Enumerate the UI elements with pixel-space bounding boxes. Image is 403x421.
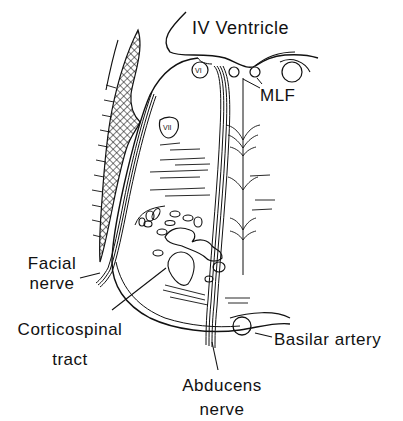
corticospinal-bundles <box>139 207 225 285</box>
mlf-left <box>229 67 239 77</box>
mlf-right <box>250 67 260 77</box>
svg-text:VII: VII <box>163 124 172 131</box>
label-facial-line2: nerve <box>22 274 82 294</box>
facial-leader <box>80 273 100 278</box>
svg-text:VI: VI <box>195 67 202 74</box>
label-corticospinal-line2: tract <box>10 345 130 375</box>
label-abducens-line2: nerve <box>180 398 264 421</box>
label-facial-line1: Facial <box>22 254 82 274</box>
label-corticospinal-line1: Corticospinal <box>10 315 130 345</box>
label-corticospinal-tract: Corticospinal tract <box>10 315 130 375</box>
label-mlf: MLF <box>260 86 296 106</box>
label-facial-nerve: Facial nerve <box>22 254 82 294</box>
basilar-leader <box>255 333 272 337</box>
label-abducens-nerve: Abducens nerve <box>180 374 264 421</box>
label-basilar-artery: Basilar artery <box>274 330 381 350</box>
label-abducens-line1: Abducens <box>180 374 264 398</box>
label-iv-ventricle: IV Ventricle <box>192 18 289 38</box>
contralateral-nucleus <box>282 62 302 82</box>
abducens-nerve-fibers <box>198 58 230 348</box>
